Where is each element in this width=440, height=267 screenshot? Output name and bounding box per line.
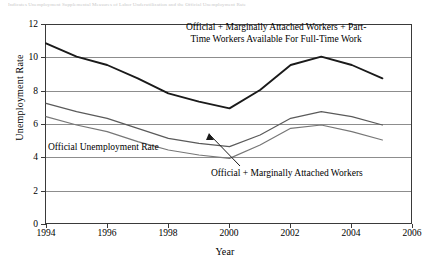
x-tick-label: 2002 [270,228,310,238]
y-axis-title: Unemployment Rate [14,43,25,153]
x-tick-label: 2004 [331,228,371,238]
plot-area [45,24,412,224]
x-axis-title: Year [185,246,265,257]
y-tick-label: 2 [8,186,38,196]
y-tick-label: 4 [8,152,38,162]
y-tick-label: 12 [8,19,38,29]
x-tick-label: 1998 [148,228,188,238]
annotation-official-rate: Official Unemployment Rate [48,142,159,154]
series-line-broad [46,43,382,108]
annotation-broad-measure: Official + Marginally Attached Workers +… [186,22,366,45]
chart-figure: Indicates Unemployment Supplemental Meas… [0,0,440,267]
x-tick-label: 2000 [209,228,249,238]
x-tick-label: 1994 [26,228,66,238]
series-line-marginal [46,103,382,146]
x-tick-label: 1996 [87,228,127,238]
data-lines [46,25,413,225]
x-tick-label: 2006 [392,228,432,238]
annotation-marginally-attached: Official + Marginally Attached Workers [211,168,363,180]
annotation-broad-line1: Official + Marginally Attached Workers +… [186,22,366,34]
annotation-broad-line2: Time Workers Available For Full-Time Wor… [186,34,366,46]
